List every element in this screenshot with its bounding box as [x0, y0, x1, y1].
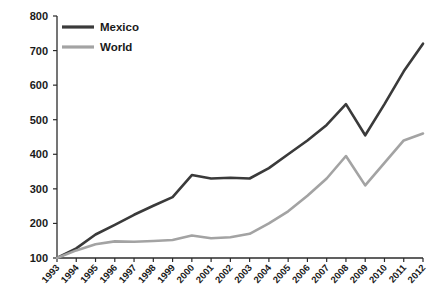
- x-tick-label: 2009: [347, 262, 369, 285]
- legend-label-mexico: Mexico: [100, 21, 139, 33]
- x-tick-label: 2000: [174, 262, 196, 285]
- y-tick-label: 200: [30, 217, 48, 229]
- x-tick-label: 2003: [232, 262, 254, 285]
- y-tick-label: 100: [30, 252, 48, 264]
- x-tick-label: 1993: [39, 262, 61, 285]
- x-tick-label: 2012: [405, 262, 427, 285]
- x-tick-label: 2007: [309, 262, 331, 285]
- series-lines: [57, 44, 423, 258]
- x-tick-label: 1999: [155, 262, 177, 285]
- x-tick-label: 1997: [116, 262, 138, 285]
- x-tick-label: 2004: [251, 261, 274, 285]
- x-tick-label: 2010: [367, 262, 389, 285]
- chart-legend: MexicoWorld: [62, 21, 139, 53]
- x-tick-label: 2008: [328, 262, 350, 285]
- line-chart: 100200300400500600700800 199319941995199…: [0, 0, 432, 297]
- x-tick-label: 2011: [386, 261, 408, 284]
- x-tick-label: 2002: [213, 262, 235, 285]
- x-tick-label: 2006: [290, 262, 312, 285]
- y-axis: 100200300400500600700800: [30, 10, 57, 264]
- y-tick-label: 800: [30, 10, 48, 22]
- y-tick-label: 700: [30, 45, 48, 57]
- y-tick-label: 500: [30, 114, 48, 126]
- x-tick-label: 1994: [58, 261, 81, 285]
- y-tick-label: 300: [30, 183, 48, 195]
- x-tick-label: 1996: [97, 262, 119, 285]
- x-tick-label: 1995: [78, 261, 101, 285]
- y-tick-label: 400: [30, 148, 48, 160]
- x-axis: 1993199419951996199719981999200020012002…: [39, 258, 427, 285]
- x-tick-label: 1998: [135, 262, 157, 285]
- chart-canvas: 100200300400500600700800 199319941995199…: [0, 0, 432, 297]
- x-tick-label: 2001: [193, 261, 216, 285]
- series-line-world: [57, 134, 423, 258]
- x-tick-label: 2005: [270, 261, 293, 285]
- y-tick-label: 600: [30, 79, 48, 91]
- series-line-mexico: [57, 44, 423, 258]
- legend-label-world: World: [100, 41, 132, 53]
